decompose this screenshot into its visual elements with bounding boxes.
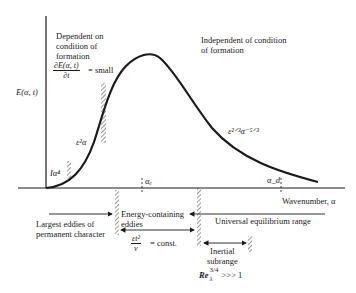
energy-containing-label: Energy-containing eddies — [121, 209, 184, 229]
low-range-label: Iα⁴ — [50, 168, 60, 178]
derivative-small-text: = small — [88, 65, 113, 75]
hatch-inertial-end — [248, 236, 252, 252]
largest-eddies-label: Largest eddies of permanent character — [36, 219, 105, 239]
inertial-law-label: ε²ᐟ³α⁻⁵ᐟ³ — [228, 126, 259, 136]
hatch-universal-boundary — [197, 188, 201, 246]
const-fraction: εt² ν — [131, 234, 141, 253]
dependent-region-text: Dependent on condition of formation — [56, 31, 103, 61]
alpha-d-label: α_d — [267, 175, 280, 185]
inertial-subrange-label: Inertial subrange — [207, 246, 238, 266]
x-axis-label: Wavenumber, α — [282, 196, 335, 206]
const-text: = const. — [150, 238, 177, 248]
universal-range-label: Universal equilibrium range — [215, 216, 311, 226]
alpha-e-label: αₑ — [145, 176, 152, 186]
y-axis-label: E(α, t) — [16, 87, 38, 97]
reynolds-condition: Re3/4λ >>> 1 — [199, 270, 242, 280]
independent-region-text: Independent of condition of formation — [201, 35, 286, 55]
mid-range-label: ε²α — [76, 137, 86, 147]
derivative-fraction: ∂E(α, t) ∂t — [53, 61, 80, 80]
spectrum-diagram-canvas — [0, 0, 356, 293]
hatch-energy-containing-boundary — [115, 190, 119, 235]
energy-spectrum-curve — [46, 54, 318, 188]
hatch-dependent-boundary — [101, 83, 106, 143]
hatch-low-wavenumber — [67, 161, 71, 179]
